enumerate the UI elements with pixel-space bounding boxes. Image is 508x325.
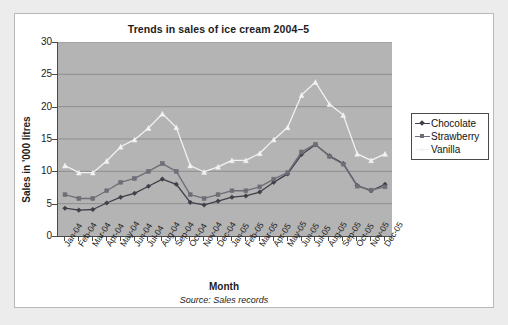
data-point-strawberry [341,162,345,166]
data-point-vanilla [118,144,123,149]
chart-title: Trends in sales of ice cream 2004–5 [46,23,391,35]
data-point-vanilla [160,111,165,116]
y-axis-title-wrapper: Sales in '000 litres [8,42,28,236]
data-point-chocolate [90,207,95,212]
data-point-strawberry [383,185,387,189]
data-point-chocolate [230,195,235,200]
legend-marker-swatch [419,120,425,126]
data-point-vanilla [285,125,290,130]
legend-key-chocolate-icon [414,118,431,129]
data-point-strawberry [355,184,359,188]
y-tick-label: 20 [30,102,52,112]
data-point-chocolate [146,184,151,189]
data-point-strawberry [258,185,262,189]
legend-label: Vanilla [431,144,460,155]
data-point-strawberry [230,189,234,193]
data-point-strawberry [244,189,248,193]
data-point-strawberry [160,162,164,166]
y-tick-label: 10 [30,166,52,176]
y-tick-mark [52,236,57,237]
y-tick-mark [52,42,57,43]
data-point-strawberry [272,177,276,181]
y-tick-mark [52,107,57,108]
data-point-vanilla [383,151,388,156]
data-point-strawberry [300,150,304,154]
y-tick-label: 30 [30,37,52,47]
data-point-chocolate [132,191,137,196]
data-point-strawberry [77,197,81,201]
data-point-chocolate [216,199,221,204]
series-line-vanilla [65,82,385,173]
data-point-strawberry [63,193,67,197]
legend-marker-swatch [420,134,424,138]
plot-area [57,42,392,237]
data-point-chocolate [244,194,249,199]
y-tick-label: 0 [30,231,52,241]
y-tick-label: 5 [30,199,52,209]
data-point-vanilla [313,80,318,85]
data-point-strawberry [91,197,95,201]
data-point-vanilla [63,163,68,168]
data-point-strawberry [133,177,137,181]
y-tick-mark [52,74,57,75]
legend-item-chocolate[interactable]: Chocolate [414,117,485,130]
y-tick-label: 25 [30,69,52,79]
data-point-strawberry [147,169,151,173]
chart-page: Trends in sales of ice cream 2004–5 0510… [0,0,508,325]
data-point-chocolate [118,195,123,200]
y-tick-label: 15 [30,134,52,144]
data-point-vanilla [355,151,360,156]
data-point-strawberry [314,142,318,146]
legend-label: Strawberry [431,131,479,142]
y-tick-mark [52,204,57,205]
data-point-strawberry [216,193,220,197]
legend-marker-swatch [420,147,424,151]
legend-key-strawberry-icon [414,131,431,142]
data-point-strawberry [119,180,123,184]
legend-label: Chocolate [431,118,476,129]
data-point-strawberry [327,155,331,159]
data-point-vanilla [369,158,374,163]
y-tick-mark [52,171,57,172]
chart-legend: ChocolateStrawberryVanilla [411,113,489,160]
data-point-strawberry [202,197,206,201]
plot-svg [58,42,392,236]
data-point-chocolate [160,177,165,182]
source-note: Source: Sales records [57,295,391,305]
data-point-strawberry [174,169,178,173]
y-tick-mark [52,139,57,140]
legend-item-vanilla[interactable]: Vanilla [414,143,485,156]
legend-key-vanilla-icon [414,144,431,155]
data-point-strawberry [369,188,373,192]
data-point-chocolate [77,208,82,213]
data-point-strawberry [105,189,109,193]
y-axis-title: Sales in '000 litres [21,90,32,230]
legend-item-strawberry[interactable]: Strawberry [414,130,485,143]
data-point-chocolate [63,206,68,211]
data-point-vanilla [188,163,193,168]
data-point-strawberry [188,193,192,197]
data-point-chocolate [104,201,109,206]
data-point-strawberry [286,171,290,175]
x-axis-title: Month [57,281,391,292]
